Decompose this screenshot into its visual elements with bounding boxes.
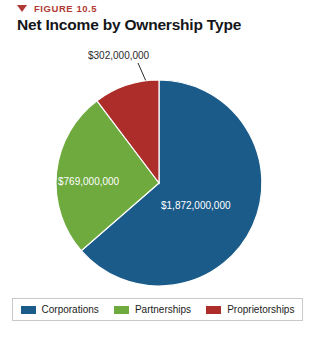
chart-legend: Corporations Partnerships Proprietorship… xyxy=(12,298,303,321)
figure-container: FIGURE 10.5 Net Income by Ownership Type… xyxy=(0,0,317,338)
legend-item-proprietorships[interactable]: Proprietorships xyxy=(206,304,294,315)
pie-label-partnerships: $769,000,000 xyxy=(58,176,119,187)
legend-item-corporations[interactable]: Corporations xyxy=(21,304,99,315)
pie-chart: $1,872,000,000 $769,000,000 xyxy=(0,0,317,300)
legend-label-proprietorships: Proprietorships xyxy=(227,304,294,315)
pie-label-corporations: $1,872,000,000 xyxy=(161,200,231,211)
legend-label-corporations: Corporations xyxy=(42,304,99,315)
legend-swatch-corporations xyxy=(21,306,36,314)
legend-label-partnerships: Partnerships xyxy=(135,304,191,315)
source-note xyxy=(14,330,304,338)
legend-swatch-proprietorships xyxy=(206,306,221,314)
pie-chart-svg xyxy=(0,0,317,300)
legend-swatch-partnerships xyxy=(114,306,129,314)
legend-item-partnerships[interactable]: Partnerships xyxy=(114,304,191,315)
